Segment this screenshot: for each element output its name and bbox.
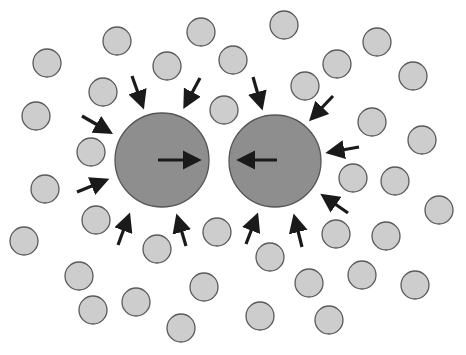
force-arrow-icon xyxy=(132,76,142,104)
small-particle xyxy=(291,72,319,100)
small-particle xyxy=(33,49,61,77)
small-particle xyxy=(381,167,409,195)
small-particle xyxy=(31,175,59,203)
small-particle xyxy=(401,271,429,299)
small-particle xyxy=(323,50,351,78)
force-arrow-icon xyxy=(331,147,359,152)
small-particle xyxy=(22,102,50,130)
force-arrow-icon xyxy=(295,219,302,247)
small-particle xyxy=(143,235,171,263)
small-particle xyxy=(77,138,105,166)
small-particle xyxy=(103,27,131,55)
large-particles-group xyxy=(115,113,321,207)
small-particle xyxy=(65,262,93,290)
force-arrow-icon xyxy=(178,219,186,246)
small-particle xyxy=(425,196,453,224)
small-particle xyxy=(339,164,367,192)
force-arrow-icon xyxy=(325,197,348,213)
small-particle xyxy=(89,78,117,106)
small-particle xyxy=(295,269,323,297)
small-particle xyxy=(122,288,150,316)
small-particle xyxy=(210,96,238,124)
small-particle xyxy=(187,18,215,46)
small-particle xyxy=(246,302,274,330)
small-particle xyxy=(82,206,110,234)
force-arrow-icon xyxy=(118,218,128,245)
small-particle xyxy=(203,218,231,246)
force-arrow-icon xyxy=(82,116,108,131)
small-particle xyxy=(10,227,38,255)
diagram-canvas xyxy=(0,0,466,355)
small-particle xyxy=(256,243,284,271)
force-arrow-icon xyxy=(77,181,104,192)
small-particle xyxy=(190,273,218,301)
small-particle xyxy=(372,222,400,250)
small-particle xyxy=(348,261,376,289)
small-particle xyxy=(363,28,391,56)
small-particle xyxy=(399,62,427,90)
small-particle xyxy=(219,46,247,74)
small-particle xyxy=(322,220,350,248)
force-arrow-icon xyxy=(253,77,261,105)
force-arrow-icon xyxy=(246,218,256,244)
force-arrow-icon xyxy=(313,96,333,117)
small-particle xyxy=(79,296,107,324)
small-particle xyxy=(315,306,343,334)
depletion-diagram xyxy=(0,0,466,355)
small-particle xyxy=(358,108,386,136)
small-particle xyxy=(270,11,298,39)
small-particle xyxy=(153,52,181,80)
force-arrow-icon xyxy=(186,78,200,104)
small-particle xyxy=(167,314,195,342)
small-particle xyxy=(408,126,436,154)
